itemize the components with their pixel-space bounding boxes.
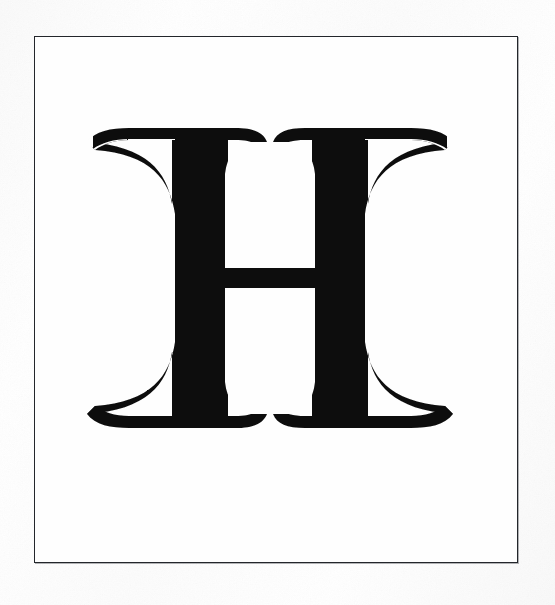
h-right-top-bracket-outer: [365, 140, 453, 214]
h-left-stem-core: [175, 138, 225, 418]
h-right-stem-core: [315, 138, 365, 418]
h-right-top-serif-tip: [447, 134, 455, 148]
scanned-plate-page: H: [0, 0, 555, 605]
glyph-container: H: [34, 36, 518, 563]
h-left-top-bracket-outer: [87, 140, 175, 214]
h-lower-counter: [225, 288, 315, 414]
latin-capital-letter-h-glyph: H: [85, 128, 455, 428]
h-right-bottom-bracket-outer: [365, 342, 453, 416]
h-left-top-serif-tip: [85, 134, 93, 148]
h-upper-counter: [225, 142, 315, 268]
h-left-bottom-bracket-outer: [87, 342, 175, 416]
